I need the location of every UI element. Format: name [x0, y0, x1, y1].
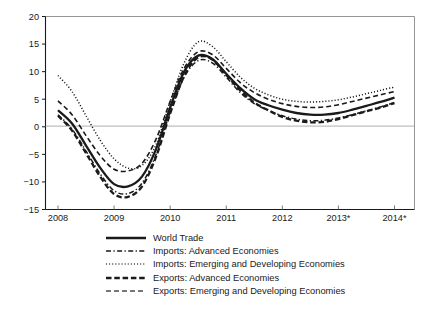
x-tick-label: 2010 — [160, 213, 180, 223]
series-line — [58, 41, 395, 169]
legend-item[interactable]: Exports: Emerging and Developing Economi… — [105, 285, 405, 298]
y-tick-label: −5 — [29, 150, 39, 160]
legend-item[interactable]: Exports: Advanced Economies — [105, 271, 405, 284]
y-tick-label: 20 — [29, 12, 39, 22]
y-tick-label: −10 — [23, 177, 39, 187]
legend-label: World Trade — [153, 232, 203, 244]
legend-line-swatch — [105, 272, 147, 284]
legend-label: Exports: Emerging and Developing Economi… — [153, 285, 345, 297]
y-tick-label: 10 — [29, 67, 39, 77]
x-axis: 200820092010201120122013*2014* — [48, 206, 407, 224]
x-tick-label: 2009 — [104, 213, 124, 223]
x-tick-label: 2012 — [272, 213, 292, 223]
series-group — [58, 41, 395, 198]
x-tick-label: 2011 — [216, 213, 236, 223]
legend-item[interactable]: Imports: Emerging and Developing Economi… — [105, 258, 405, 271]
legend-line-swatch — [105, 285, 147, 297]
y-tick-label: −15 — [23, 205, 39, 215]
y-tick-label: 15 — [29, 39, 39, 49]
legend-label: Imports: Advanced Economies — [153, 245, 279, 257]
x-tick-label: 2014* — [382, 213, 406, 223]
legend-label: Exports: Advanced Economies — [153, 272, 279, 284]
y-tick-label: 5 — [34, 95, 39, 105]
chart-legend: World TradeImports: Advanced EconomiesIm… — [105, 231, 405, 298]
legend-line-swatch — [105, 232, 147, 244]
x-tick-label: 2008 — [48, 213, 68, 223]
x-tick-label: 2013* — [326, 213, 350, 223]
series-line — [58, 56, 395, 197]
y-tick-label: 0 — [34, 122, 39, 132]
legend-label: Imports: Emerging and Developing Economi… — [153, 258, 345, 270]
legend-item[interactable]: Imports: Advanced Economies — [105, 244, 405, 257]
y-axis: −15−10−505101520 — [23, 12, 45, 215]
legend-line-swatch — [105, 245, 147, 257]
series-line — [58, 55, 395, 187]
legend-item[interactable]: World Trade — [105, 231, 405, 244]
series-line — [58, 60, 395, 195]
legend-line-swatch — [105, 258, 147, 270]
chart-figure: −15−10−505101520 20082009201020112012201… — [0, 0, 431, 318]
